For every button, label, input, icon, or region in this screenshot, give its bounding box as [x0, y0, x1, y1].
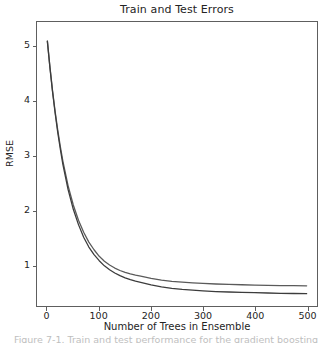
series-line-0 — [47, 41, 306, 286]
x-tick-mark — [151, 307, 152, 311]
series-line-1 — [47, 41, 306, 294]
chart-title: Train and Test Errors — [36, 3, 318, 16]
y-tick-mark — [33, 211, 37, 212]
figure-caption: Figure 7-1. Train and test performance f… — [0, 334, 332, 343]
plot-lines-svg — [37, 22, 317, 306]
x-axis-label: Number of Trees in Ensemble — [36, 321, 318, 332]
x-tick-label: 100 — [79, 310, 119, 321]
x-tick-label: 300 — [183, 310, 223, 321]
y-tick-mark — [33, 156, 37, 157]
x-tick-label: 0 — [26, 310, 66, 321]
plot-area — [36, 21, 318, 307]
x-tick-mark — [46, 307, 47, 311]
y-tick-label: 3 — [0, 149, 30, 160]
y-tick-label: 4 — [0, 94, 30, 105]
y-tick-mark — [33, 101, 37, 102]
y-tick-label: 2 — [0, 204, 30, 215]
y-tick-mark — [33, 46, 37, 47]
y-tick-mark — [33, 266, 37, 267]
x-tick-mark — [308, 307, 309, 311]
x-tick-label: 400 — [235, 310, 275, 321]
x-tick-mark — [99, 307, 100, 311]
x-tick-label: 200 — [131, 310, 171, 321]
x-tick-mark — [255, 307, 256, 311]
y-tick-label: 1 — [0, 259, 30, 270]
y-tick-label: 5 — [0, 39, 30, 50]
x-tick-mark — [203, 307, 204, 311]
x-tick-label: 500 — [288, 310, 328, 321]
figure-container: Train and Test Errors RMSE 12345 0100200… — [0, 0, 332, 343]
